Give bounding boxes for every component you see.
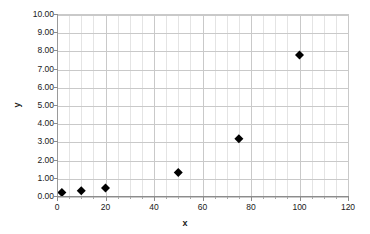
- x-tick-label: 120: [328, 202, 368, 212]
- x-tick-label: 60: [183, 202, 223, 212]
- x-tick-label: 0: [37, 202, 77, 212]
- x-axis-tick-labels: 020406080100120: [0, 0, 370, 234]
- x-tick-label: 100: [280, 202, 320, 212]
- x-axis-title: x: [0, 218, 370, 228]
- x-tick-label: 40: [134, 202, 174, 212]
- x-tick-label: 20: [86, 202, 126, 212]
- scatter-chart: 0.001.002.003.004.005.006.007.008.009.00…: [0, 0, 370, 234]
- x-tick-label: 80: [231, 202, 271, 212]
